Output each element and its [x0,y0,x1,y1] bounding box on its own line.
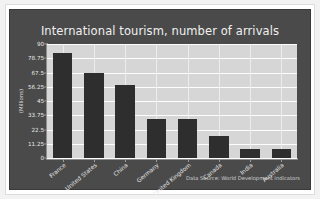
x-axis-tick-mark [156,159,157,162]
bar [147,119,166,158]
bar [240,149,259,158]
vertical-gridline [250,44,251,158]
chart-figure: International tourism, number of arrival… [9,9,311,190]
x-axis-tick-mark [219,159,220,162]
x-axis-tick-mark [250,159,251,162]
x-axis-tick-mark [63,159,64,162]
page-background: International tourism, number of arrival… [0,0,320,199]
y-axis-tick-label: 78.75 [28,55,44,61]
gridline [47,58,297,59]
y-axis-tick-label: 11.25 [28,141,44,147]
chart-title: International tourism, number of arrival… [10,24,310,38]
y-axis-tick-mark [43,143,46,144]
y-axis-tick-mark [43,115,46,116]
x-axis-tick-mark [281,159,282,162]
bar [272,149,291,158]
y-axis-tick-mark [43,129,46,130]
vertical-gridline [281,44,282,158]
bar [53,53,72,158]
bar [84,73,103,159]
x-axis-tick-mark [188,159,189,162]
y-axis-tick-mark [43,101,46,102]
y-axis-tick-labels: 011.2522.533.754556.2567.578.7590 [10,10,44,189]
y-axis-tick-mark [43,58,46,59]
y-axis-tick-label: 56.25 [28,84,44,90]
y-axis-tick-mark [43,72,46,73]
data-source-annotation: Data Source: World Development Indicator… [186,175,300,181]
bar [115,85,134,158]
y-axis-tick-mark [43,44,46,45]
x-axis-tick-mark [94,159,95,162]
x-axis-tick-mark [125,159,126,162]
bar [178,119,197,158]
gridline [47,158,297,159]
y-axis-tick-mark [43,158,46,159]
bar [209,136,228,158]
y-axis-tick-mark [43,86,46,87]
plot-area [47,44,297,158]
gridline [47,44,297,45]
y-axis-tick-label: 33.75 [28,112,44,118]
